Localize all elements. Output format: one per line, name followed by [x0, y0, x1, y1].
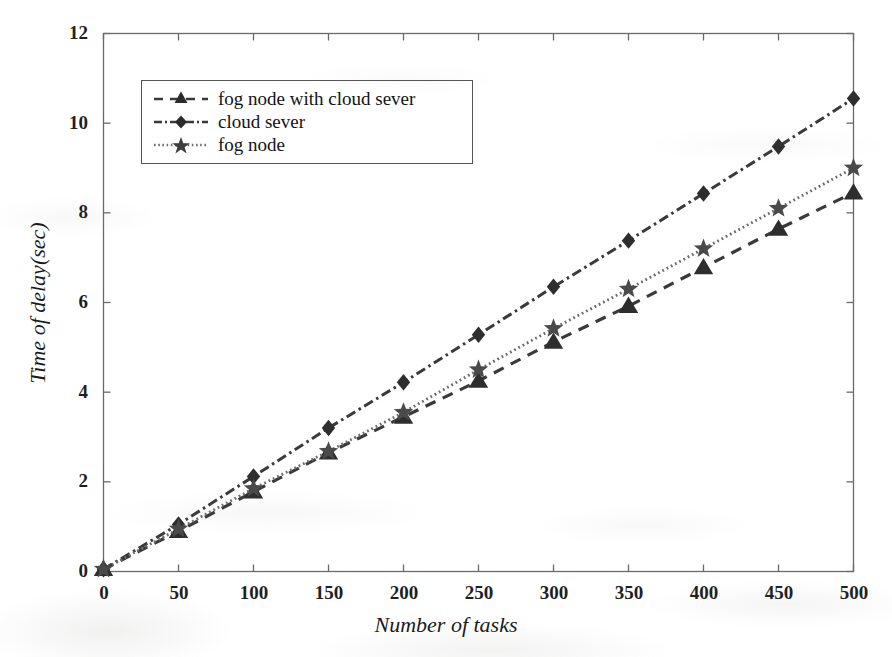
legend-swatch-triangle-dashed	[152, 88, 210, 110]
x-axis-title: Number of tasks	[0, 612, 892, 638]
data-point-marker	[847, 90, 860, 106]
data-point-marker	[622, 232, 635, 248]
data-point-marker	[322, 420, 335, 436]
data-point-marker	[697, 185, 710, 201]
xtick-label: 350	[615, 582, 644, 604]
data-point-marker	[547, 279, 560, 295]
xtick-label: 100	[240, 582, 269, 604]
xtick-label: 300	[540, 582, 569, 604]
legend-item-cloud-sever: cloud sever	[152, 110, 464, 133]
xtick-label: 500	[840, 582, 869, 604]
ytick-label: 2	[38, 470, 88, 492]
ytick-label: 0	[38, 560, 88, 582]
legend-item-fog-node-with-cloud-sever: fog node with cloud sever	[152, 87, 464, 110]
xtick-label: 50	[170, 582, 189, 604]
legend-swatch-diamond-dashdot	[152, 111, 210, 133]
data-point-marker	[694, 258, 713, 274]
series-fog-node-with-cloud-sever	[94, 183, 863, 576]
data-point-marker	[619, 297, 638, 313]
delay-vs-tasks-chart: 0 2 4 6 8 10 12 0 50 100 150 200 250 300…	[0, 0, 892, 657]
data-point-marker	[544, 332, 563, 348]
ytick-label: 10	[38, 112, 88, 134]
data-point-marker	[472, 327, 485, 343]
data-point-marker	[397, 374, 410, 390]
ytick-label: 12	[38, 22, 88, 44]
chart-legend: fog node with cloud sever cloud sever fo…	[141, 80, 473, 164]
legend-label: fog node with cloud sever	[218, 88, 415, 110]
data-point-marker	[844, 183, 863, 199]
y-axis-title: Time of delay(sec)	[25, 183, 51, 423]
legend-item-fog-node: fog node	[152, 133, 464, 156]
legend-label: fog node	[218, 134, 285, 156]
xtick-label: 450	[765, 582, 794, 604]
data-point-marker	[694, 239, 713, 257]
xtick-label: 250	[465, 582, 494, 604]
xtick-label: 400	[690, 582, 719, 604]
xtick-label: 0	[99, 582, 109, 604]
xtick-label: 150	[315, 582, 344, 604]
data-point-marker	[769, 219, 788, 235]
data-point-marker	[619, 279, 638, 297]
legend-label: cloud sever	[218, 111, 305, 133]
legend-swatch-star-dotted	[152, 134, 210, 156]
xtick-label: 200	[390, 582, 419, 604]
data-point-marker	[769, 198, 788, 216]
data-point-marker	[772, 138, 785, 154]
